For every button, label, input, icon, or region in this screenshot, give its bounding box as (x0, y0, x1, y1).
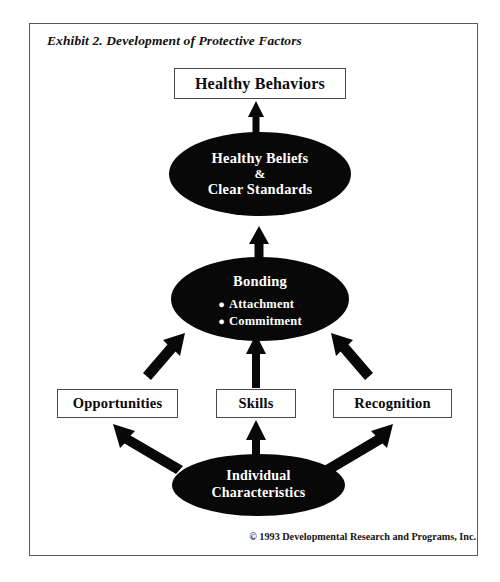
node-healthy-behaviors: Healthy Behaviors (174, 68, 346, 99)
node-healthy-behaviors-label: Healthy Behaviors (195, 75, 325, 93)
node-skills: Skills (216, 389, 296, 418)
node-individual-characteristics-line1: Individual (226, 468, 290, 485)
node-healthy-beliefs-line1: Healthy Beliefs (212, 150, 309, 167)
node-skills-label: Skills (238, 395, 273, 412)
bullet-dot-icon: ● (218, 315, 225, 327)
figure-title: Exhibit 2. Development of Protective Fac… (47, 33, 302, 49)
node-recognition: Recognition (333, 389, 452, 418)
node-healthy-beliefs: Healthy Beliefs & Clear Standards (169, 132, 351, 216)
node-bonding: Bonding ●Attachment ●Commitment (171, 257, 349, 341)
node-individual-characteristics: Individual Characteristics (172, 454, 345, 516)
node-individual-characteristics-line2: Characteristics (212, 485, 306, 502)
node-bonding-bullet-commitment-label: Commitment (229, 314, 302, 328)
copyright-notice: © 1993 Developmental Research and Progra… (0, 531, 476, 542)
node-healthy-beliefs-line3: Clear Standards (208, 181, 313, 198)
node-recognition-label: Recognition (354, 395, 430, 412)
node-bonding-bullet-commitment: ●Commitment (218, 313, 302, 330)
bullet-dot-icon: ● (218, 298, 225, 310)
node-opportunities: Opportunities (57, 389, 178, 418)
node-opportunities-label: Opportunities (73, 395, 163, 412)
figure-page: Exhibit 2. Development of Protective Fac… (0, 0, 500, 582)
node-bonding-label: Bonding (233, 273, 287, 290)
node-bonding-bullet-attachment: ●Attachment (218, 296, 294, 313)
node-healthy-beliefs-ampersand: & (254, 167, 265, 181)
node-bonding-bullet-list: ●Attachment ●Commitment (218, 296, 302, 329)
node-bonding-bullet-attachment-label: Attachment (229, 297, 294, 311)
